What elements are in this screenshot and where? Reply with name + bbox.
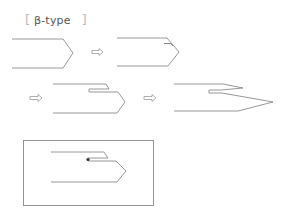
result-box [24, 141, 154, 206]
arrow-2-icon [30, 95, 42, 102]
step-3-shape [53, 84, 125, 113]
step-5-shape [51, 152, 126, 182]
arrow-1-icon [92, 49, 103, 56]
step-4-shape [174, 84, 273, 111]
folding-diagram [0, 0, 286, 216]
anchor-dot-icon [86, 158, 89, 161]
step-1-shape [12, 39, 73, 68]
arrow-3-icon [144, 95, 156, 102]
step-2-shape [117, 38, 179, 66]
